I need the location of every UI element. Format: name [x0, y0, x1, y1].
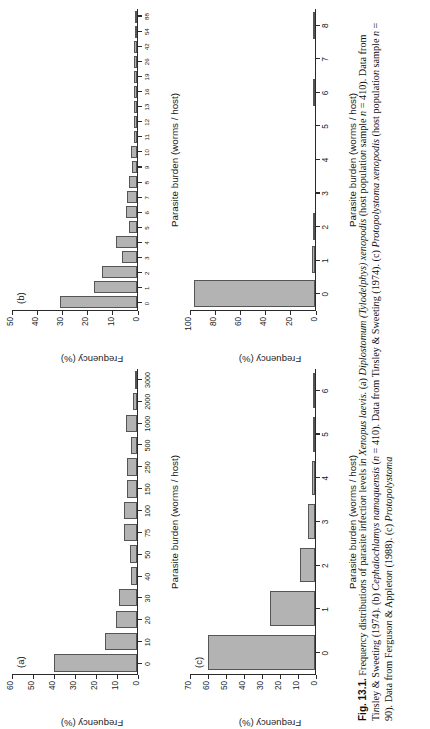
- panel-c-bars: [190, 369, 315, 674]
- panel-b-xtick-mark: [138, 272, 142, 273]
- panel-b-xtick-label: 2: [143, 272, 150, 275]
- panel-c-plot-area: (c): [190, 369, 316, 675]
- panel-c-xtick-label: 3: [321, 520, 330, 525]
- panel-d-xtick-label: 0: [321, 292, 330, 297]
- panel-b-xtick-label: 42: [143, 43, 150, 50]
- panel-a-ytick-label: 50: [27, 681, 36, 690]
- panel-a-xtick-mark: [138, 641, 142, 642]
- panel-b-bar: [131, 146, 138, 158]
- panel-a-xtick-mark: [138, 554, 142, 555]
- panel-a-bar: [130, 545, 137, 562]
- panel-a-xtick-label: 20: [143, 616, 152, 624]
- panel-b-y-ticks: 01020304050: [12, 311, 138, 357]
- panel-a-xtick-label: 3000: [143, 372, 152, 388]
- panel-b-bar: [135, 11, 138, 23]
- panel-a-ytick-mark: [138, 675, 139, 679]
- panel-b-xtick-label: 10: [143, 149, 150, 156]
- panel-b-ytick-mark: [138, 311, 139, 315]
- panel-c-xtick-mark: [316, 433, 320, 434]
- panel-c-bar: [208, 635, 315, 670]
- panel-b-xtick-label: 0: [143, 302, 150, 305]
- panel-b-ytick-label: 50: [6, 317, 15, 326]
- panel-b-bar: [134, 41, 137, 53]
- panel-c-ytick-mark: [262, 675, 263, 679]
- panel-a-xtick-label: 0: [143, 662, 152, 666]
- panel-b-xtick-label: 6: [143, 211, 150, 214]
- panel-b-bar: [129, 221, 137, 233]
- panel-d-xtick-label: 6: [321, 91, 330, 96]
- panel-a-xtick-mark: [138, 597, 142, 598]
- panel-a-bar: [54, 654, 137, 671]
- panel-b-ytick-label: 0: [132, 317, 141, 322]
- panel-c-bar: [300, 548, 315, 583]
- panel-d-xtick-label: 5: [321, 124, 330, 129]
- panel-b-xtick-label: 13: [143, 104, 150, 111]
- panel-d-bar: [194, 280, 315, 307]
- panel-b-bar: [132, 161, 137, 173]
- panel-c-ytick-label: 10: [292, 681, 301, 690]
- panel-b-xtick-label: 5: [143, 226, 150, 229]
- panel-d-ytick-mark: [190, 311, 191, 315]
- panel-b-xtick-mark: [138, 287, 142, 288]
- panel-b-xtick-label: 8: [143, 181, 150, 184]
- panel-b-xtick-label: 54: [143, 28, 150, 35]
- panel-a-xtick-label: 250: [143, 461, 152, 473]
- panel-c-y-ticks: 010203040506070: [190, 675, 316, 721]
- panel-b-xtick-mark: [138, 227, 142, 228]
- panel-b-xtick-mark: [138, 46, 142, 47]
- panel-d-ytick-mark: [265, 311, 266, 315]
- panel-d-ytick-label: 60: [234, 317, 243, 326]
- panel-a-bar: [105, 633, 137, 650]
- panel-d-bar: [313, 12, 315, 39]
- panel-c-ytick-mark: [316, 675, 317, 679]
- panel-a-bar: [127, 458, 137, 475]
- panel-a-bar: [124, 502, 137, 519]
- panel-b-xtick-mark: [138, 302, 142, 303]
- panel-c-xtick-mark: [316, 565, 320, 566]
- panel-a-bar: [126, 415, 137, 432]
- panel-c-ytick-label: 20: [274, 681, 283, 690]
- panel-d-ytick-label: 80: [209, 317, 218, 326]
- panel-a-ytick-mark: [96, 675, 97, 679]
- panel-c-ytick-mark: [244, 675, 245, 679]
- panel-b-xtick-mark: [138, 257, 142, 258]
- panel-d-bars: [190, 9, 315, 310]
- panel-d-xtick-mark: [316, 192, 320, 193]
- panel-a-bar: [131, 567, 137, 584]
- panel-b-bar: [60, 296, 138, 308]
- panel-d-ytick-mark: [240, 311, 241, 315]
- panel-c-bar: [270, 591, 315, 626]
- panel-c-xtick-mark: [316, 477, 320, 478]
- panel-d-xtick-label: 2: [321, 225, 330, 230]
- panel-a-ytick-label: 60: [6, 681, 15, 690]
- panel-b-xtick-mark: [138, 182, 142, 183]
- panel-a-plot-area: (a): [12, 369, 138, 675]
- panel-a-xtick-mark: [138, 401, 142, 402]
- panel-c-bar: [312, 461, 315, 496]
- panel-a-xtick-label: 1000: [143, 416, 152, 432]
- panel-b-xtick-label: 26: [143, 58, 150, 65]
- panel-a-bar: [133, 393, 137, 410]
- panel-b-xtick-label: 3: [143, 256, 150, 259]
- panel-c-ytick-label: 30: [256, 681, 265, 690]
- panel-b-xtick-mark: [138, 121, 142, 122]
- panel-b-bar: [129, 176, 137, 188]
- panel-c-bar: [313, 417, 316, 452]
- panel-d-xtick-mark: [316, 226, 320, 227]
- panel-d-ytick-label: 20: [285, 317, 294, 326]
- panel-b-bar: [134, 116, 137, 128]
- panel-b-bar: [134, 56, 137, 68]
- panel-c-xtick-label: 6: [321, 389, 330, 394]
- panel-a-xtick-label: 75: [143, 529, 152, 537]
- panel-d-bar: [312, 246, 315, 273]
- panel-a-ytick-mark: [33, 675, 34, 679]
- figure-13-1: Frequency (%) 0102030405060 (a) 01020304…: [0, 0, 430, 729]
- panel-c-xtick-label: 0: [321, 651, 330, 656]
- panel-c-xtick-label: 5: [321, 432, 330, 437]
- panel-c-ytick-mark: [208, 675, 209, 679]
- panel-a-ytick-label: 40: [48, 681, 57, 690]
- panel-b-bar: [134, 101, 137, 113]
- panel-a-xtick-label: 30: [143, 595, 152, 603]
- panel-b-ytick-label: 10: [107, 317, 116, 326]
- panel-c: Frequency (%) 010203040506070 (c) 012345…: [184, 365, 356, 721]
